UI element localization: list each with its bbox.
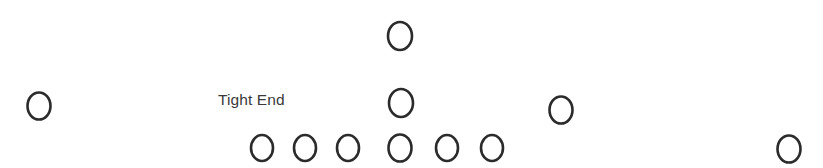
- player-marker-lineman-6: [481, 135, 503, 161]
- player-marker-layer: [28, 22, 801, 163]
- player-marker-lineman-4: [389, 135, 412, 162]
- player-marker-lineman-2: [294, 135, 316, 161]
- player-marker-lineman-5: [436, 135, 458, 161]
- player-marker-deep-back: [388, 22, 412, 50]
- player-marker-wide-receiver: [778, 136, 801, 163]
- player-marker-flanker: [550, 97, 573, 124]
- player-marker-lineman-3: [337, 135, 359, 161]
- player-marker-split-end: [28, 93, 51, 120]
- player-marker-quarterback: [389, 89, 413, 117]
- formation-diagram: Tight End: [0, 0, 823, 168]
- tight-end-label: Tight End: [218, 92, 285, 108]
- player-marker-lineman-1: [251, 135, 273, 161]
- formation-canvas: [0, 0, 823, 168]
